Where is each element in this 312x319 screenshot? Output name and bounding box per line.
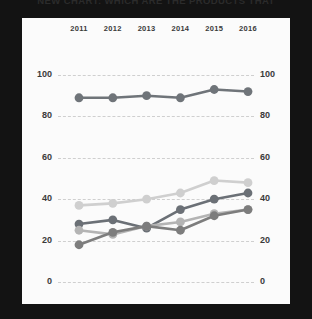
series-line-2 bbox=[79, 181, 248, 206]
series-line-1 bbox=[79, 89, 248, 97]
data-point bbox=[75, 201, 84, 210]
data-point bbox=[176, 226, 185, 235]
data-point bbox=[244, 87, 253, 96]
plot-area: 201120122013201420152016 100100808060604… bbox=[22, 18, 290, 304]
data-point bbox=[176, 93, 185, 102]
series-layer bbox=[22, 18, 290, 304]
data-point bbox=[108, 93, 117, 102]
data-point bbox=[210, 176, 219, 185]
chart-screenshot: NEW CHART: WHICH ARE THE PRODUCTS THAT 2… bbox=[0, 0, 312, 319]
data-point bbox=[108, 228, 117, 237]
data-point bbox=[244, 205, 253, 214]
data-point bbox=[210, 85, 219, 94]
data-point bbox=[210, 211, 219, 220]
data-point bbox=[142, 91, 151, 100]
data-point bbox=[108, 199, 117, 208]
data-point bbox=[142, 222, 151, 231]
data-point bbox=[176, 205, 185, 214]
data-point bbox=[176, 189, 185, 198]
data-point bbox=[75, 240, 84, 249]
data-point bbox=[176, 218, 185, 227]
data-point bbox=[75, 226, 84, 235]
data-point bbox=[210, 195, 219, 204]
data-point bbox=[142, 195, 151, 204]
chart-card: 201120122013201420152016 100100808060604… bbox=[22, 18, 290, 304]
data-point bbox=[75, 93, 84, 102]
data-point bbox=[244, 178, 253, 187]
series-1 bbox=[75, 85, 253, 102]
series-line-5 bbox=[79, 210, 248, 245]
data-point bbox=[244, 189, 253, 198]
chart-title-strip: NEW CHART: WHICH ARE THE PRODUCTS THAT bbox=[0, 0, 312, 12]
page-title: NEW CHART: WHICH ARE THE PRODUCTS THAT bbox=[37, 0, 274, 6]
data-point bbox=[108, 216, 117, 225]
series-2 bbox=[75, 176, 253, 210]
